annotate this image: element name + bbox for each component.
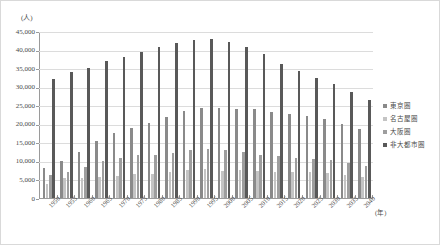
x-label-cell: 2010 [250, 200, 268, 240]
bar-group [163, 32, 181, 198]
bar-group [145, 32, 163, 198]
bar-group [180, 32, 198, 198]
x-label-cell: 1975 [128, 200, 146, 240]
bar [78, 152, 81, 198]
x-label-cell: 2040 [356, 200, 374, 240]
bar [63, 178, 66, 198]
bar [43, 168, 46, 198]
bar [87, 68, 90, 198]
bar [67, 172, 70, 198]
bar [330, 160, 333, 198]
bar [158, 47, 161, 198]
legend-swatch-icon [383, 117, 387, 121]
bar [119, 158, 122, 198]
bar [46, 184, 49, 198]
x-label-cell: 1995 [198, 200, 216, 240]
bar [274, 172, 277, 198]
bar [350, 92, 353, 199]
legend-label: 東京圏 [390, 102, 411, 109]
bar [235, 109, 238, 198]
bar [189, 150, 192, 198]
x-label-cell: 2015 [268, 200, 286, 240]
bar [172, 153, 175, 198]
bar [259, 155, 262, 198]
plot-area [39, 32, 373, 199]
bar [358, 129, 361, 198]
bar [333, 84, 336, 198]
chart-legend: 東京圏名古屋圏大阪圏非大都市圏 [383, 99, 439, 151]
bar [95, 141, 98, 198]
bar [84, 167, 87, 198]
bar [361, 177, 364, 198]
y-tick-label: 30,000 [16, 84, 35, 91]
x-label-cell: 1965 [93, 200, 111, 240]
bar [169, 172, 172, 198]
y-tick-label: 10,000 [16, 158, 35, 165]
y-tick-label: 20,000 [16, 121, 35, 128]
legend-swatch-icon [383, 104, 387, 108]
bar [175, 43, 178, 198]
y-tick-label: 0 [32, 196, 36, 203]
bar [70, 72, 73, 198]
bar [263, 54, 266, 198]
bar [280, 64, 283, 198]
bar [123, 57, 126, 198]
x-label-cell: 2035 [338, 200, 356, 240]
x-label-cell: 2005 [233, 200, 251, 240]
bar [288, 114, 291, 198]
legend-label: 名古屋圏 [390, 115, 418, 122]
bar [200, 108, 203, 198]
bar [323, 119, 326, 198]
bar [306, 116, 309, 198]
bar [165, 117, 168, 198]
y-tick-mark [36, 199, 39, 200]
bar [368, 100, 371, 198]
legend-swatch-icon [383, 130, 387, 134]
bar [270, 112, 273, 198]
bar-group [75, 32, 93, 198]
x-label-cell: 1990 [180, 200, 198, 240]
bar [186, 170, 189, 198]
legend-item[interactable]: 東京圏 [383, 99, 439, 112]
bar [130, 128, 133, 199]
legend-item[interactable]: 非大都市圏 [383, 138, 439, 151]
legend-item[interactable]: 名古屋圏 [383, 112, 439, 125]
bar [98, 177, 101, 198]
bar [218, 108, 221, 198]
legend-swatch-icon [383, 143, 387, 147]
x-label-cell: 2000 [215, 200, 233, 240]
bar [365, 166, 368, 198]
bar [154, 155, 157, 198]
bar-group [268, 32, 286, 198]
bar [242, 152, 245, 198]
y-tick-label: 35,000 [16, 66, 35, 73]
legend-label: 大阪圏 [390, 128, 411, 135]
y-tick-label: 40,000 [16, 47, 35, 54]
bar-group [250, 32, 268, 198]
bar-group [303, 32, 321, 198]
bar [341, 124, 344, 198]
bar [148, 123, 151, 198]
bar [207, 149, 210, 198]
bar [49, 175, 52, 198]
bar-group [110, 32, 128, 198]
y-axis-tick-labels: 45,00040,00035,00030,00025,00020,00015,0… [1, 1, 39, 245]
bar-group [40, 32, 58, 198]
x-label-cell: 1955 [58, 200, 76, 240]
x-label-cell: 1950 [40, 200, 58, 240]
x-label-cell: 2030 [321, 200, 339, 240]
bar-group [215, 32, 233, 198]
bar-group [58, 32, 76, 198]
bar-group [93, 32, 111, 198]
bar [183, 111, 186, 198]
bar [113, 133, 116, 198]
bar [277, 156, 280, 198]
x-label-cell: 1960 [75, 200, 93, 240]
legend-item[interactable]: 大阪圏 [383, 125, 439, 138]
bar [204, 169, 207, 198]
x-label-cell: 1970 [110, 200, 128, 240]
bar [105, 61, 108, 198]
x-label-cell: 2020 [285, 200, 303, 240]
bar [151, 174, 154, 198]
y-tick-label: 25,000 [16, 103, 35, 110]
